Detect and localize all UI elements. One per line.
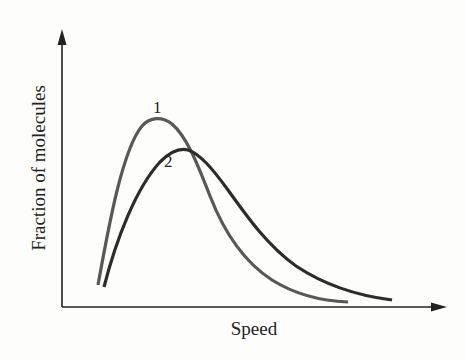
y-axis-label: Fraction of molecules <box>28 85 49 251</box>
y-axis-arrow-icon <box>58 29 67 45</box>
chart-figure: 1 2 Speed Fraction of molecules <box>0 0 466 361</box>
curve-1-label: 1 <box>153 98 162 117</box>
x-axis-label: Speed <box>231 318 278 339</box>
chart-canvas: 1 2 Speed Fraction of molecules <box>0 0 466 361</box>
x-axis-arrow-icon <box>431 303 447 312</box>
curve-2 <box>104 150 392 301</box>
curve-2-label: 2 <box>164 152 173 171</box>
